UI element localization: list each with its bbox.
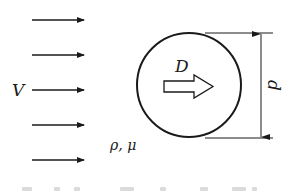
caption-cutoff [0,186,295,194]
diameter-label: d [264,80,284,91]
velocity-label: V [12,80,26,100]
drag-force-label: D [174,56,189,76]
flow-arrows [32,20,84,160]
drag-force-arrow-icon [164,75,213,98]
sphere-drag-diagram: V ρ, μ D d [0,0,295,194]
fluid-properties-label: ρ, μ [109,137,136,153]
